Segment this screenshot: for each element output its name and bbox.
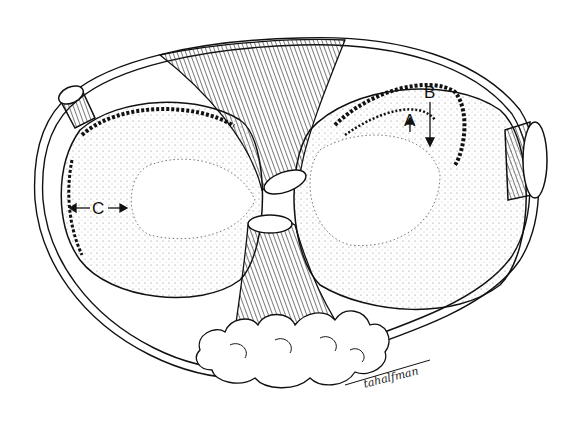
label-b: B [424,84,435,101]
right-vessel-stump [505,122,547,200]
label-a: A [404,112,415,129]
left-vessel-stump [56,82,95,128]
lobulated-tissue [196,311,389,388]
label-c: C [92,200,104,217]
anatomical-illustration [0,0,585,425]
